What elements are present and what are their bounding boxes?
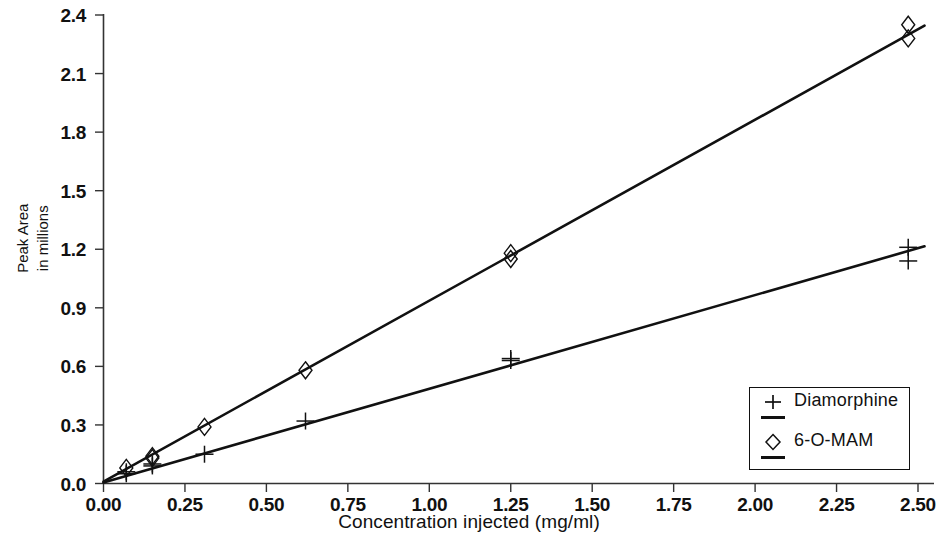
y-axis-ticks bbox=[95, 15, 104, 484]
plus-marker-icon bbox=[757, 392, 789, 412]
legend-label-diamorphine: Diamorphine bbox=[794, 390, 898, 411]
y-axis-title-line2: in millions bbox=[33, 113, 53, 363]
y-tick-label: 0.0 bbox=[28, 475, 86, 494]
legend-line-swatch-6-o-mam bbox=[761, 456, 785, 459]
legend-line-swatch-diamorphine bbox=[761, 416, 785, 419]
y-axis-title-line1: Peak Area bbox=[13, 113, 33, 363]
y-tick-label: 2.1 bbox=[28, 65, 86, 84]
y-tick-label: 2.4 bbox=[28, 6, 86, 25]
legend-label-6-o-mam: 6-O-MAM bbox=[794, 430, 873, 451]
legend-item-6-o-mam: 6-O-MAM bbox=[750, 429, 911, 470]
legend-item-diamorphine: Diamorphine bbox=[750, 389, 911, 430]
chart-legend: Diamorphine 6-O-MAM bbox=[749, 387, 910, 470]
y-axis-title: Peak Area in millions bbox=[13, 113, 54, 363]
x-axis-ticks bbox=[104, 484, 919, 493]
x-axis-title: Concentration injected (mg/ml) bbox=[0, 511, 938, 533]
scatter-chart: 0.00.30.60.91.21.51.82.12.4 0.000.250.50… bbox=[0, 0, 938, 538]
diamond-marker-icon bbox=[757, 432, 789, 452]
y-tick-label: 0.3 bbox=[28, 416, 86, 435]
